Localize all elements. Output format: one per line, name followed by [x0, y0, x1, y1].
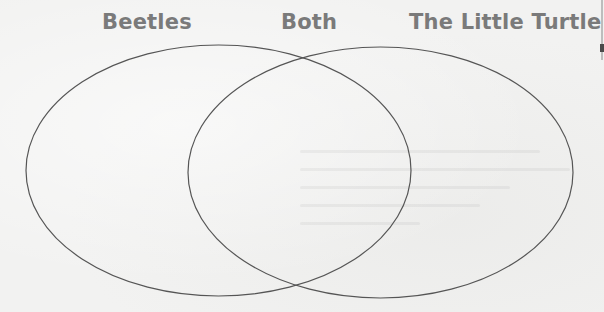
venn-circle-beetles[interactable]	[26, 45, 411, 296]
venn-diagram	[0, 0, 604, 312]
worksheet-page: Beetles Both The Little Turtle	[0, 0, 604, 312]
page-edge-mark	[601, 0, 603, 60]
venn-circle-little-turtle[interactable]	[188, 47, 573, 298]
